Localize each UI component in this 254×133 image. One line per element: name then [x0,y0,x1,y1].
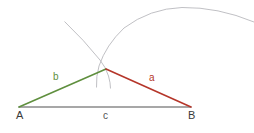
geometry-figure: A B a b c [0,0,254,133]
side-label-b: b [53,72,59,82]
side-label-a: a [149,73,155,83]
vertex-label-b: B [188,110,195,121]
vertex-label-a: A [16,110,23,121]
side-b-segment [19,69,106,107]
figure-canvas [0,0,254,133]
side-label-c: c [103,111,108,121]
